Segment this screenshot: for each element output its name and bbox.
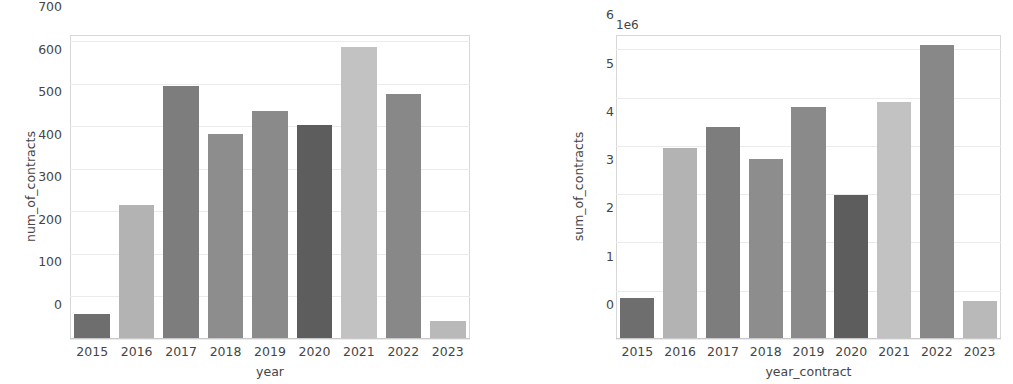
bar	[208, 134, 244, 339]
x-tick-label: 2018	[210, 344, 242, 359]
x-tick-label: 2022	[921, 344, 953, 359]
y-tick-label: 3	[606, 152, 614, 167]
right-y-axis-label: sum_of_contracts	[571, 112, 586, 262]
bar	[163, 86, 199, 338]
figure-row: 0100200300400500600700 num_of_contracts …	[0, 0, 1013, 384]
x-tick-label: 2023	[432, 344, 464, 359]
left-bars	[70, 35, 470, 338]
y-tick-label: 1	[606, 248, 614, 263]
y-tick-label: 400	[38, 126, 62, 141]
x-tick-label: 2022	[387, 344, 419, 359]
bar	[663, 148, 697, 338]
x-tick-label: 2019	[254, 344, 286, 359]
bar	[706, 127, 740, 338]
x-tick-label: 2016	[121, 344, 153, 359]
y-tick-label: 4	[606, 103, 614, 118]
x-tick-label: 2021	[343, 344, 375, 359]
left-plot-area	[70, 35, 470, 339]
x-tick-label: 2016	[664, 344, 696, 359]
y-tick-label: 0	[54, 297, 62, 312]
bar	[74, 314, 110, 338]
x-tick-label: 2018	[750, 344, 782, 359]
bar	[920, 45, 954, 338]
y-tick-label: 600	[38, 41, 62, 56]
y-tick-label: 0	[606, 297, 614, 312]
left-x-tick-labels: 201520162017201820192020202120222023	[70, 344, 470, 364]
x-tick-label: 2020	[299, 344, 331, 359]
right-x-tick-labels: 201520162017201820192020202120222023	[616, 344, 1001, 364]
x-tick-label: 2017	[165, 344, 197, 359]
bar	[963, 301, 997, 338]
right-bars	[616, 35, 1001, 338]
x-tick-label: 2017	[707, 344, 739, 359]
y-tick-label: 6	[606, 7, 614, 22]
x-tick-label: 2015	[76, 344, 108, 359]
left-y-axis-label: num_of_contracts	[23, 112, 38, 262]
y-tick-label: 300	[38, 169, 62, 184]
bar	[749, 159, 783, 338]
right-x-axis-label: year_contract	[616, 364, 1001, 379]
x-tick-label: 2023	[964, 344, 996, 359]
gridline	[70, 339, 470, 340]
y-tick-label: 2	[606, 200, 614, 215]
right-y-axis-offset-text: 1e6	[616, 18, 639, 32]
y-tick-label: 200	[38, 211, 62, 226]
chart-sum-of-contracts: 1e6 0123456 sum_of_contracts 20152016201…	[506, 0, 1013, 384]
y-tick-label: 500	[38, 84, 62, 99]
y-tick-label: 100	[38, 254, 62, 269]
bar	[877, 102, 911, 338]
bar	[119, 205, 155, 338]
x-tick-label: 2019	[793, 344, 825, 359]
bar	[620, 298, 654, 338]
bar	[252, 111, 288, 338]
bar	[386, 94, 422, 338]
chart-num-of-contracts: 0100200300400500600700 num_of_contracts …	[0, 0, 506, 384]
y-tick-label: 5	[606, 55, 614, 70]
bar	[791, 107, 825, 338]
x-tick-label: 2021	[878, 344, 910, 359]
x-tick-label: 2015	[621, 344, 653, 359]
bar	[834, 195, 868, 338]
x-tick-label: 2020	[835, 344, 867, 359]
bar	[341, 47, 377, 338]
bar	[430, 321, 466, 338]
bar	[297, 125, 333, 338]
left-x-axis-label: year	[70, 364, 470, 379]
y-tick-label: 700	[38, 0, 62, 14]
gridline	[616, 339, 1001, 340]
right-plot-area	[616, 35, 1001, 339]
